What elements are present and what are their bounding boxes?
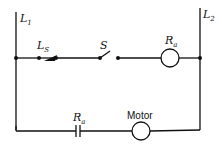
ladder-diagram: L1 L2 LS S Ra Ra Motor xyxy=(0,0,222,145)
label-s: S xyxy=(100,40,108,51)
label-ls: LS xyxy=(37,40,49,54)
label-ra-contact: Ra xyxy=(73,112,85,126)
label-ra-coil: Ra xyxy=(165,35,177,49)
label-motor: Motor xyxy=(127,111,153,121)
motor-circle xyxy=(132,122,150,140)
circuit-lines xyxy=(0,0,222,145)
relay-coil-ra xyxy=(161,49,179,67)
label-l2: L2 xyxy=(203,9,215,23)
label-l1: L1 xyxy=(20,13,32,27)
